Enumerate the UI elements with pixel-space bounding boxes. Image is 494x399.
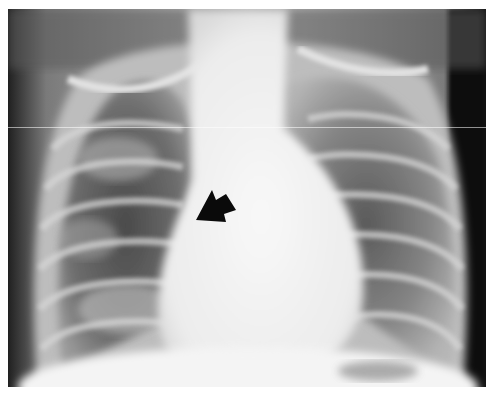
scan-line-artifact <box>8 127 486 128</box>
xray-rendering <box>8 9 486 387</box>
arrow-annotation-icon <box>194 186 238 222</box>
xray-image <box>8 9 486 387</box>
